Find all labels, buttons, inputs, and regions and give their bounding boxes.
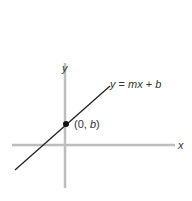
x-axis-label: x [177,139,184,151]
line-diagram: y x y = mx + b (0, b) [0,0,192,201]
y-axis-label: y [61,62,69,74]
line-equation-label: y = mx + b [109,78,161,90]
y-intercept-point [63,121,69,127]
intercept-label: (0, b) [74,118,100,130]
